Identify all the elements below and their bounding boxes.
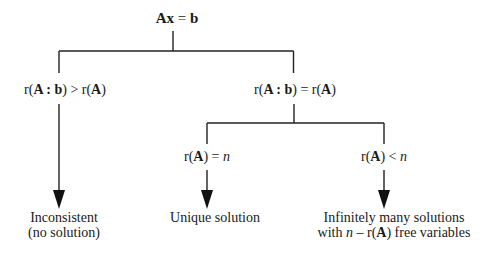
outcome-line: Unique solution — [170, 210, 260, 225]
solution-decision-tree: Ax = b r(A : b) > r(A) r(A : b) = r(A) r… — [0, 0, 495, 253]
outcome-inconsistent: Inconsistent (no solution) — [28, 210, 100, 240]
rank-deficient-condition: r(A) < n — [361, 149, 407, 164]
outcome-line: (no solution) — [28, 225, 100, 240]
arrowhead-down-icon — [201, 190, 213, 209]
outcome-line: Inconsistent — [28, 210, 100, 225]
consistent-condition: r(A : b) = r(A) — [254, 82, 336, 97]
root-equation: Ax = b — [156, 11, 199, 26]
arrowhead-down-icon — [378, 190, 390, 209]
full-rank-condition: r(A) = n — [184, 149, 230, 164]
arrowhead-down-icon — [53, 190, 65, 209]
outcome-infinite-solutions: Infinitely many solutions with n – r(A) … — [318, 210, 471, 240]
outcome-line: with n – r(A) free variables — [318, 225, 471, 240]
outcome-unique-solution: Unique solution — [170, 210, 260, 225]
inconsistent-condition: r(A : b) > r(A) — [24, 82, 106, 97]
outcome-line: Infinitely many solutions — [318, 210, 471, 225]
